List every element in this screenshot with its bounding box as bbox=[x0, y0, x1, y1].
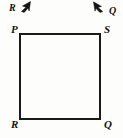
vertex-label-p: P bbox=[11, 24, 18, 35]
geometry-figure: P S R Q R Q bbox=[0, 0, 123, 138]
ray-label-r: R bbox=[9, 3, 16, 13]
square-outline bbox=[20, 34, 100, 119]
vertex-label-r: R bbox=[11, 119, 18, 130]
ray-q-arrow-icon bbox=[94, 2, 103, 13]
ray-r-arrow-icon bbox=[22, 2, 31, 13]
vertex-label-q: Q bbox=[104, 119, 112, 130]
vertex-label-s: S bbox=[104, 24, 110, 35]
ray-label-q: Q bbox=[109, 6, 116, 16]
